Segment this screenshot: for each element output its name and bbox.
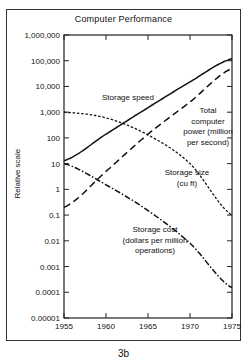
y-tick-label: 0.001 [40,263,61,272]
y-tick-label: 10 [51,160,60,169]
y-tick-label: 1,000 [40,108,61,117]
y-tick-label: 100 [47,134,61,143]
annotation-storage-cost: (dollars per million [123,236,188,245]
x-tick-label: 1970 [181,322,199,331]
annotation-storage-speed: Storage speed [102,93,154,102]
chart-plot: 1,000,000100,00010,0001,0001001010.10.01… [0,0,247,363]
y-tick-label: 1 [56,185,61,194]
y-tick-label: 100,000 [31,57,60,66]
annotation-total-computer-power: Total [200,106,217,115]
figure-caption: 3b [0,348,247,359]
x-tick-label: 1965 [139,322,157,331]
y-tick-label: 0.1 [49,211,61,220]
annotation-total-computer-power: computer [191,117,225,126]
annotation-total-computer-power: power (million [183,127,232,136]
x-tick-label: 1975 [223,322,241,331]
y-axis-label: Relative scale [13,148,22,198]
y-tick-label: 0.0001 [36,288,61,297]
annotation-storage-cost: Storage cost [133,225,179,234]
y-tick-label: 1,000,000 [24,31,60,40]
x-tick-label: 1955 [55,322,73,331]
annotation-storage-cost: operations) [135,246,175,255]
annotation-storage-size: (cu ft) [177,179,198,188]
y-tick-label: 10,000 [36,82,61,91]
annotation-total-computer-power: per second) [187,138,230,147]
annotation-storage-size: Storage size [165,168,210,177]
x-tick-label: 1960 [97,322,115,331]
y-tick-label: 0.01 [44,237,60,246]
